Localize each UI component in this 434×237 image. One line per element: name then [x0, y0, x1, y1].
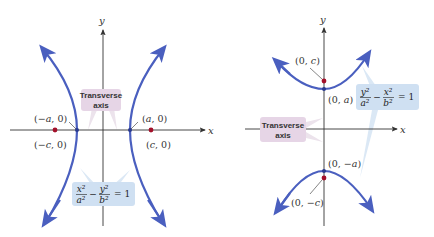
- transverse-axis-text-line2: axis: [275, 131, 291, 140]
- equation-leader: [362, 66, 376, 86]
- svg-text:a²: a²: [77, 195, 86, 205]
- transverse-axis-text-line1: Transverse: [262, 121, 305, 130]
- svg-text:y²: y²: [99, 184, 109, 194]
- y-axis-label: y: [319, 14, 326, 25]
- svg-text:b²: b²: [383, 98, 393, 108]
- bottom-focus-point: [322, 176, 327, 181]
- right-focus-label: (c, 0): [146, 139, 171, 150]
- figure-horizontal-hyperbola: x y (−a, 0) (a, 0) (−c, 0) (c, 0) Transv…: [10, 15, 214, 226]
- svg-text:b²: b²: [99, 195, 109, 205]
- right-focus-point: [149, 128, 154, 133]
- top-branch-left-arrow: [275, 60, 290, 74]
- y-axis-label: y: [98, 15, 105, 26]
- svg-text:x²: x²: [77, 184, 86, 194]
- right-branch-curve: [130, 48, 164, 222]
- right-vertex-label: (a, 0): [142, 113, 167, 124]
- bottom-branch-left-arrow: [276, 193, 290, 212]
- x-axis-label: x: [400, 124, 406, 135]
- bottom-vertex-point: [322, 169, 326, 173]
- left-branch-curve-bottom-arrow: [44, 200, 60, 224]
- svg-text:y²: y²: [360, 87, 370, 97]
- bottom-focus-label: (0, −c): [291, 197, 324, 208]
- top-vertex-label: (0, a): [328, 94, 353, 105]
- diagram-canvas: x y (−a, 0) (a, 0) (−c, 0) (c, 0) Transv…: [0, 0, 434, 237]
- svg-text:−: −: [373, 92, 381, 102]
- top-focus-leader: [310, 68, 322, 79]
- left-focus-label: (−c, 0): [34, 139, 67, 150]
- svg-text:x²: x²: [384, 87, 393, 97]
- top-branch-curve: [278, 53, 369, 89]
- right-vertex-leader: [131, 122, 138, 129]
- top-focus-point: [322, 79, 327, 84]
- top-vertex-point: [322, 87, 326, 91]
- left-vertex-leader: [69, 122, 76, 129]
- left-focus-point: [53, 128, 58, 133]
- left-branch-curve: [42, 48, 77, 222]
- transverse-axis-text-line2: axis: [93, 101, 109, 110]
- left-vertex-label: (−a, 0): [34, 113, 67, 124]
- right-branch-curve-bottom-arrow: [148, 200, 164, 224]
- top-focus-label: (0, c): [295, 55, 320, 66]
- transverse-axis-text-line1: Transverse: [80, 91, 123, 100]
- svg-text:−: −: [89, 189, 97, 199]
- transverse-axis-leader: [306, 132, 323, 142]
- x-axis-label: x: [208, 125, 214, 136]
- transverse-axis-leader: [88, 108, 98, 130]
- equation-leader: [360, 110, 378, 178]
- svg-text:a²: a²: [361, 98, 370, 108]
- svg-text:= 1: = 1: [398, 92, 414, 102]
- svg-text:= 1: = 1: [114, 189, 130, 199]
- figure-vertical-hyperbola: x y (0, c) (0, a) (0, −a) (0, −c) Transv…: [245, 14, 419, 226]
- transverse-axis-leader: [108, 108, 117, 130]
- bottom-vertex-label: (0, −a): [328, 158, 361, 169]
- bottom-focus-leader: [310, 180, 322, 194]
- transverse-axis-leader: [306, 118, 323, 128]
